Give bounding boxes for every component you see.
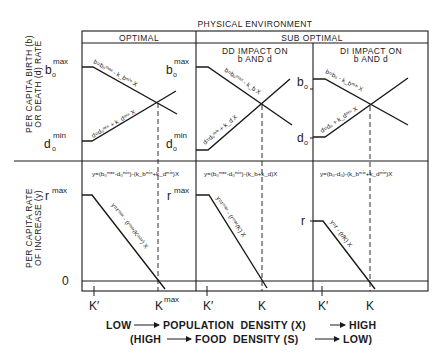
svg-text:b: b <box>166 63 173 77</box>
y-axis-bottom-label: PER CAPITA RATE OF INCREASE (y) <box>24 188 43 268</box>
svg-text:max: max <box>52 186 67 195</box>
optimal-right-b0max: b o max <box>166 57 189 78</box>
svg-text:d: d <box>166 137 173 151</box>
dd-right-b0: b o <box>297 75 308 90</box>
svg-text:o: o <box>173 145 177 152</box>
svg-text:r: r <box>45 189 49 203</box>
svg-text:d: d <box>44 137 51 151</box>
optimal-right-rmax: r max <box>167 186 189 203</box>
y-tick-zero: 0 <box>62 274 69 288</box>
dd-right-r: r <box>301 214 305 228</box>
x-axis-caption: LOW POPULATION DENSITY (X) HIGH (HIGH FO… <box>106 319 376 345</box>
svg-text:d: d <box>297 131 304 145</box>
diagram-title: PHYSICAL ENVIRONMENT <box>198 19 313 29</box>
svg-text:o: o <box>173 71 177 78</box>
y-axis-top-label: PER CAPITA BIRTH (b) OR DEATH (d) RATE <box>24 35 43 133</box>
x-axis-line1-mid: POPULATION DENSITY (X) <box>163 319 306 331</box>
svg-text:o: o <box>52 145 56 152</box>
y-axis-bottom-line2: OF INCREASE (y) <box>33 190 43 266</box>
svg-text:0: 0 <box>62 274 69 288</box>
svg-text:max: max <box>164 295 179 304</box>
svg-text:min: min <box>174 131 187 140</box>
optimal-y-equation: y=(b₀ᵐᵃˣ-d₀ᵐⁱⁿ)-(k_bᵐⁱⁿ+k_dᵐⁱⁿ)X <box>92 170 179 177</box>
panel-dd-top <box>196 67 313 291</box>
svg-text:b: b <box>297 75 304 89</box>
x-axis-line2-right: LOW) <box>343 333 372 345</box>
y-tick-d0min: d o min <box>44 131 66 152</box>
di-d-equation: d=d₀ + k_dᵐⁱⁿ X <box>319 105 359 134</box>
svg-text:max: max <box>174 186 189 195</box>
svg-text:max: max <box>174 57 189 66</box>
di-b-equation: b=b₀ - k_bᵐⁱⁿ X <box>325 68 365 93</box>
panel-dd-bottom <box>196 195 313 288</box>
x-axis-line2-mid: FOOD DENSITY (S) <box>195 333 299 345</box>
panel-di-top <box>313 78 408 291</box>
optimal-d-equation: d=d₀ᵐⁱⁿ + k_dᵐⁱⁿ X <box>90 108 136 139</box>
y-tick-rmax: r max <box>45 186 67 203</box>
dd-right-d0: d o <box>297 131 308 146</box>
svg-text:max: max <box>53 57 68 66</box>
optimal-right-d0min: d o min <box>166 131 187 152</box>
x-tick-kmax: K max <box>155 295 179 313</box>
y-axis-top-line2: OR DEATH (d) RATE <box>33 40 43 127</box>
svg-text:b: b <box>45 63 52 77</box>
x-tick-kprime-dd: K′ <box>203 299 214 313</box>
x-axis-line2-left: (HIGH <box>130 333 161 345</box>
optimal-b-equation: b=b₀ᵐᵃˣ - k_bᵐⁱⁿ X <box>93 58 139 88</box>
y-tick-b0max: b o max <box>45 57 68 78</box>
population-regulation-diagram: PHYSICAL ENVIRONMENT OPTIMAL SUB OPTIMAL… <box>0 0 438 355</box>
x-axis-line1-left: LOW <box>106 319 131 331</box>
svg-text:K: K <box>155 299 163 313</box>
x-tick-k-dd: K <box>258 299 266 313</box>
header-dd-line2: b AND d <box>238 54 272 64</box>
dd-y-equation: y=(b₀ᵐᵃˣ-d₀ᵐⁱⁿ)-(k_b+k_d)X <box>204 170 277 177</box>
svg-text:min: min <box>53 131 66 140</box>
header-optimal: OPTIMAL <box>119 33 159 43</box>
panel-optimal-top <box>82 67 177 291</box>
di-y-equation: y=(b₀-d₀)-(k_bᵐⁱⁿ+k_dᵐⁱⁿ)X <box>320 170 392 177</box>
frame <box>14 31 428 291</box>
x-tick-kprime-di: K′ <box>318 299 329 313</box>
svg-text:r: r <box>167 189 171 203</box>
x-tick-k-di: K <box>366 299 374 313</box>
header-di-line2: b AND d <box>354 54 388 64</box>
x-tick-kprime-optimal: K′ <box>89 299 100 313</box>
header-sub-optimal: SUB OPTIMAL <box>281 33 343 43</box>
panel-optimal-bottom <box>82 195 165 289</box>
svg-text:o: o <box>304 139 308 146</box>
svg-text:o: o <box>304 83 308 90</box>
svg-text:r: r <box>301 214 305 228</box>
x-axis-line1-right: HIGH <box>349 319 376 331</box>
svg-text:o: o <box>52 71 56 78</box>
